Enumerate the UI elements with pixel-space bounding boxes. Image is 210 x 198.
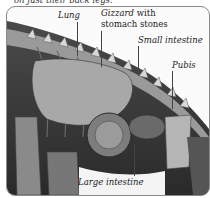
label-gizzard-with: with	[137, 8, 156, 18]
label-pubis: Pubis	[172, 60, 196, 70]
caption-fragment: on just their back legs.	[14, 0, 113, 5]
leader-line-lung	[77, 22, 78, 56]
label-large-intestine: Large intestine	[78, 177, 144, 187]
label-stomach-stones: stomach stones	[101, 19, 168, 29]
leader-line-gizzard	[101, 31, 102, 67]
leader-line-pubis	[172, 71, 173, 109]
label-lung: Lung	[58, 10, 80, 20]
leader-line-small-intestine	[138, 46, 139, 76]
label-gizzard-name: Gizzard	[101, 8, 134, 18]
label-gizzard: Gizzard with	[101, 8, 156, 18]
label-small-intestine: Small intestine	[138, 35, 203, 45]
leader-line-large-intestine	[134, 144, 135, 176]
